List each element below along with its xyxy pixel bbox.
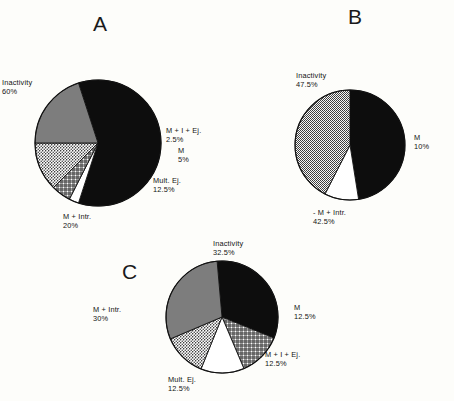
- panel-letter-a: A: [93, 12, 108, 36]
- panel-letter-c: C: [122, 260, 138, 284]
- pie-slice-label: M + I + Ej. 12.5%: [265, 350, 300, 368]
- figure-canvas: AInactivity 60%M + I + Ej. 2.5%M 5%Mult.…: [0, 0, 454, 401]
- pie-slice-label: Inactivity 32.5%: [213, 239, 243, 257]
- pie-slice-label: Mult. Ej. 12.5%: [153, 176, 181, 194]
- pie-slice-label: M 5%: [178, 146, 189, 164]
- pie-slice-label: M 10%: [414, 133, 429, 151]
- pie-slice-label: M + I + Ej. 2.5%: [166, 126, 201, 144]
- pie-slice-label: Inactivity 47.5%: [296, 71, 326, 89]
- pie-slice-label: Inactivity 60%: [2, 78, 32, 96]
- pie-slice-label: Mult. Ej. 12.5%: [168, 375, 196, 393]
- pie-slice-label: M + Intr. 20%: [63, 212, 91, 230]
- pie-slice-label: - M + Intr. 42.5%: [313, 208, 346, 226]
- panel-letter-b: B: [348, 5, 363, 29]
- pie-slice-label: M 12.5%: [294, 303, 316, 321]
- pie-slice-label: M + Intr. 30%: [93, 305, 121, 323]
